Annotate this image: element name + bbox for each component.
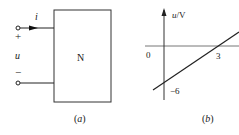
- x-tick-label: 3: [216, 51, 221, 61]
- y-axis-label: u/V: [172, 10, 186, 20]
- plus-sign: +: [15, 30, 21, 42]
- caption-a: (a): [74, 113, 86, 125]
- current-label: i: [35, 11, 38, 22]
- voltage-label: u: [15, 50, 20, 61]
- y-tick-label: −6: [170, 86, 180, 96]
- caption-b: (b): [202, 113, 214, 125]
- network-label: N: [77, 52, 84, 63]
- origin-label: 0: [146, 50, 151, 60]
- labels-layer: i + u − N (a) u/V 0 3 −6 (b): [0, 0, 239, 135]
- minus-sign: −: [15, 66, 21, 78]
